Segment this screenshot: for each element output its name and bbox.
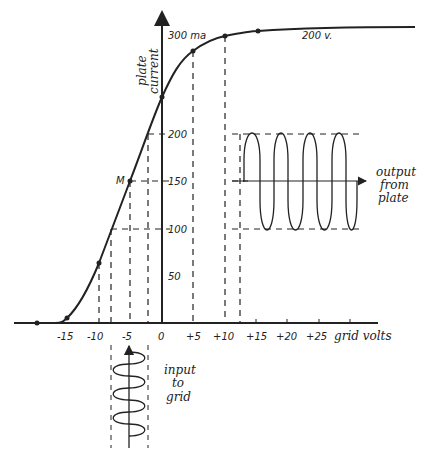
svg-text:-10: -10 [87, 331, 103, 342]
y-tick-150: 150 [168, 176, 187, 187]
output-label-line3: plate [378, 191, 409, 205]
y-tick-300: 300 ma [168, 30, 206, 41]
output-label-line1: output [376, 165, 416, 179]
svg-text:-15: -15 [57, 331, 73, 342]
input-label-line2: to [172, 376, 184, 390]
svg-text:+20: +20 [276, 331, 297, 342]
svg-text:+10: +10 [213, 331, 234, 342]
y-tick-50: 50 [168, 271, 181, 282]
characteristic-curve [14, 27, 415, 323]
characteristic-diagram: plate current 300 ma 200 150 100 50 -15 … [0, 0, 427, 453]
y-axis-label-line2: current [147, 48, 161, 94]
svg-text:-5: -5 [122, 331, 132, 342]
y-tick-200: 200 [168, 129, 187, 140]
svg-text:+15: +15 [246, 331, 267, 342]
svg-text:+5: +5 [186, 331, 201, 342]
input-label-line1: input [164, 363, 196, 377]
y-tick-100: 100 [168, 224, 187, 235]
output-label-line2: from [379, 178, 409, 192]
input-label-line3: grid [166, 390, 191, 404]
x-tick-labels: -15 -10 -5 0 +5 +10 +15 +20 +25 [57, 331, 327, 342]
curve-voltage-label: 200 v. [302, 30, 333, 41]
svg-text:+25: +25 [306, 331, 327, 342]
operating-point-label: M [116, 175, 125, 186]
svg-text:0: 0 [158, 331, 164, 342]
x-axis-label: grid volts [334, 329, 392, 343]
input-waveform-group [111, 345, 148, 448]
